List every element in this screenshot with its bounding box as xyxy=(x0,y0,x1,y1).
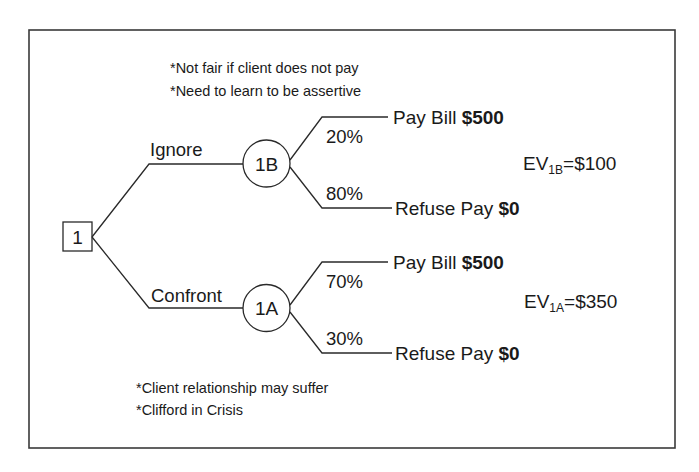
branch-ignore-line xyxy=(92,164,243,237)
chance-node-1a: 1A xyxy=(243,285,290,332)
probability-label: 80% xyxy=(326,183,363,204)
chance-node-label: 1A xyxy=(255,298,279,319)
outcome-1b-pay: 20% Pay Bill $500 xyxy=(290,107,504,161)
top-note-1: *Not fair if client does not pay xyxy=(170,60,359,76)
outcome-value: $0 xyxy=(499,198,520,219)
branch-confront-label: Confront xyxy=(151,285,222,306)
chance-node-1b: 1B xyxy=(243,140,290,187)
branch-ignore-label: Ignore xyxy=(150,139,202,160)
outcome-label: Pay Bill $500 xyxy=(393,107,504,128)
outcome-value: $0 xyxy=(499,343,520,364)
outcome-1a-pay: 70% Pay Bill $500 xyxy=(290,252,504,306)
decision-tree-diagram: *Not fair if client does not pay *Need t… xyxy=(0,0,699,472)
outcome-1a-refuse: 30% Refuse Pay $0 xyxy=(290,312,520,364)
decision-node-1: 1 xyxy=(63,222,92,251)
bottom-note-1: *Client relationship may suffer xyxy=(136,380,329,396)
branch-confront: Confront xyxy=(92,237,243,308)
probability-label: 30% xyxy=(326,328,363,349)
bottom-note-2: *Clifford in Crisis xyxy=(136,402,243,418)
probability-label: 20% xyxy=(326,126,363,147)
outcome-label: Refuse Pay $0 xyxy=(395,343,520,364)
outcome-1b-refuse: 80% Refuse Pay $0 xyxy=(290,167,520,219)
decision-node-label: 1 xyxy=(72,227,83,248)
branch-ignore: Ignore xyxy=(92,139,243,237)
outcome-label: Pay Bill $500 xyxy=(393,252,504,273)
top-note-2: *Need to learn to be assertive xyxy=(170,83,361,99)
probability-label: 70% xyxy=(326,271,363,292)
expected-value-1a: EV1A=$350 xyxy=(524,291,617,315)
outcome-label: Refuse Pay $0 xyxy=(395,198,520,219)
chance-node-label: 1B xyxy=(255,154,278,175)
outcome-value: $500 xyxy=(462,252,504,273)
outcome-value: $500 xyxy=(462,107,504,128)
expected-value-1b: EV1B=$100 xyxy=(523,153,616,177)
